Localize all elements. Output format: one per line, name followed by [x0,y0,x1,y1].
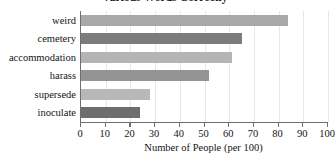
x-axis-tick [253,122,254,127]
y-axis-label: supersede [0,89,76,100]
x-axis-tick-label: 20 [124,127,135,140]
x-axis-tick [302,122,303,127]
x-axis-tick-label: 90 [297,127,308,140]
bar [81,52,232,63]
bar [81,15,288,26]
x-axis-tick-label: 70 [248,127,259,140]
x-axis-tick [80,122,81,127]
x-axis-tick-label: 100 [319,127,335,140]
x-axis-tick-label: 80 [272,127,283,140]
x-axis-tick-labels: 0102030405060708090100 [80,127,327,141]
x-axis-tick-label: 30 [149,127,160,140]
chart-title: Various Words Correctly [0,0,330,3]
y-axis-label: weird [0,15,76,26]
y-axis-label: harass [0,70,76,81]
x-axis-tick-label: 0 [77,127,82,140]
x-axis-tick [204,122,205,127]
y-axis-label: accommodation [0,52,76,63]
gridline [328,11,329,122]
x-axis-tick-label: 10 [99,127,110,140]
y-axis-category-labels: weirdcemeteryaccommodationharasssupersed… [0,11,76,122]
y-axis-label: cemetery [0,33,76,44]
bar [81,33,242,44]
bar-series [81,11,328,122]
y-axis-label: inoculate [0,107,76,118]
x-axis-tick [179,122,180,127]
x-axis-tick-label: 40 [174,127,185,140]
x-axis-tick [327,122,328,127]
x-axis-tick [129,122,130,127]
plot-area [80,11,328,123]
bar [81,107,140,118]
x-axis-tick [278,122,279,127]
x-axis-tick [228,122,229,127]
x-axis-tick-label: 60 [223,127,234,140]
x-axis-title: Number of People (per 100) [80,142,327,153]
bar [81,70,209,81]
x-axis-tick-label: 50 [198,127,209,140]
x-axis-tick [154,122,155,127]
x-axis-tick [105,122,106,127]
bar [81,89,150,100]
